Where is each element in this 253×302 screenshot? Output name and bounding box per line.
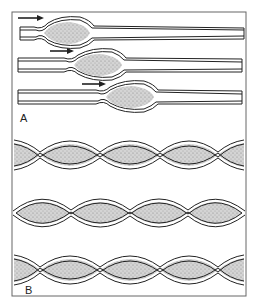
panel-a-label: A xyxy=(20,112,27,124)
panel-b xyxy=(13,140,245,285)
segmentation-row-2 xyxy=(13,199,245,227)
arrow-right-icon xyxy=(99,81,106,87)
segmentation-row-3 xyxy=(14,255,244,285)
panel-b-label: B xyxy=(25,284,32,296)
peristalsis-row-2 xyxy=(18,48,242,80)
diagram-canvas xyxy=(0,0,253,302)
peristalsis-row-1 xyxy=(18,15,244,48)
peristalsis-row-3 xyxy=(18,81,242,113)
segmentation-row-1 xyxy=(14,140,244,170)
arrow-right-icon xyxy=(37,15,44,21)
panel-a xyxy=(18,15,244,112)
bolus xyxy=(44,22,90,44)
